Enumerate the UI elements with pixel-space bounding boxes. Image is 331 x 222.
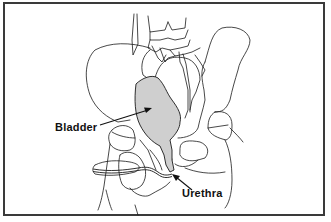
pelvis-illustration — [0, 0, 331, 222]
bladder-shape — [135, 76, 180, 172]
left-obturator — [119, 152, 146, 189]
right-hip-joint — [208, 112, 232, 140]
right-ilium — [205, 27, 250, 112]
bladder-label: Bladder — [55, 121, 97, 133]
urethra-label: Urethra — [182, 187, 223, 199]
right-obturator — [180, 141, 208, 161]
